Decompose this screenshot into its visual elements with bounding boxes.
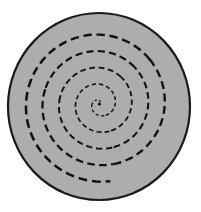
figure-canvas — [0, 0, 201, 212]
gray-disc — [8, 13, 190, 200]
spiral-center-dot — [98, 102, 101, 105]
spiral-disc-illustration — [0, 0, 201, 212]
